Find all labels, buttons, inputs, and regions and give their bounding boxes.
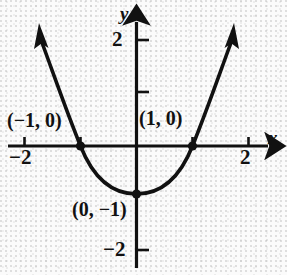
y-tick-label-minus-2: −2 — [103, 239, 125, 260]
point-left-intercept — [76, 141, 85, 150]
point-right-intercept — [188, 141, 197, 150]
y-tick-label-2: 2 — [112, 29, 123, 50]
point-vertex — [132, 189, 141, 198]
x-tick-label-minus-2: −2 — [9, 147, 31, 168]
y-axis-label: y — [120, 4, 128, 23]
x-axis-label: x — [268, 128, 278, 147]
parabola-figure: y x 2 −2 −2 2 (−1, 0) (1, 0) (0, −1) — [0, 0, 287, 275]
right-intercept-label: (1, 0) — [139, 108, 182, 128]
x-tick-label-2: 2 — [240, 147, 251, 168]
left-intercept-label: (−1, 0) — [7, 110, 62, 130]
vertex-label: (0, −1) — [72, 199, 127, 219]
plot-canvas — [0, 0, 287, 275]
